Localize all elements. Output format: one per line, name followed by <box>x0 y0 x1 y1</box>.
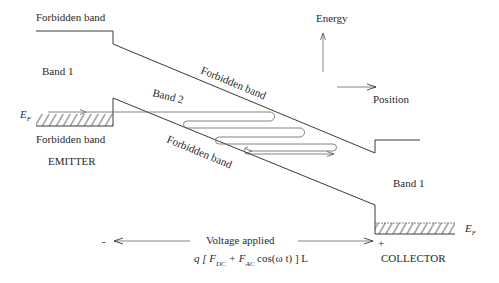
label-forbidden-lower-diag: Forbidden band <box>165 133 234 171</box>
label-forbidden-upper-diag: Forbidden band <box>199 64 268 102</box>
label-fermi-left: EF <box>19 108 32 123</box>
label-forbidden-top-left: Forbidden band <box>36 11 106 23</box>
electron-trajectory-tail <box>245 147 334 154</box>
collector-fermi-sea <box>375 223 455 234</box>
energy-band-diagram: Forbidden band Band 1 Band 2 Forbidden b… <box>0 0 499 283</box>
label-fermi-right: EF <box>464 222 477 237</box>
label-band2: Band 2 <box>152 86 185 105</box>
label-voltage-applied: Voltage applied <box>206 234 275 246</box>
label-forbidden-bottom-left: Forbidden band <box>36 133 106 145</box>
label-minus: - <box>102 235 106 247</box>
lower-band-edge <box>113 98 455 234</box>
label-collector: COLLECTOR <box>381 252 446 264</box>
label-energy: Energy <box>316 12 348 24</box>
emitter-fermi-sea <box>36 114 113 126</box>
label-position: Position <box>373 93 410 105</box>
label-plus: + <box>378 237 384 249</box>
label-formula: q [ FDC + FAC cos(ω t) ] L <box>194 252 308 268</box>
label-band1-left: Band 1 <box>42 65 73 77</box>
label-band1-right: Band 1 <box>393 177 424 189</box>
label-emitter: EMITTER <box>48 155 96 167</box>
